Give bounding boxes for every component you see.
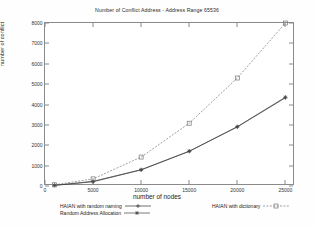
y-tick-label: 6000 (31, 61, 42, 67)
data-point (139, 168, 143, 172)
series-2 (53, 21, 288, 187)
legend-label: Random Address Allocation (60, 210, 121, 216)
x-tick-label: 20000 (230, 187, 244, 193)
chart-legend: HAIAN with random naming Random Address … (0, 200, 314, 224)
x-axis-label: number of nodes (0, 193, 314, 200)
series-line (55, 98, 286, 186)
series-line (55, 23, 286, 185)
y-tick-label: 2000 (31, 142, 42, 148)
legend-key-dashed-square (263, 203, 289, 209)
plot-area: 010002000300040005000600070008000 050001… (44, 22, 294, 185)
y-axis-label: number of conflict (0, 22, 5, 66)
legend-label: HAIAN with random naming (60, 203, 122, 209)
series-1 (53, 95, 288, 187)
legend-marker (136, 204, 140, 208)
legend-item-haian-dictionary: HAIAN with dictionary (212, 202, 289, 209)
legend-item-random-address-allocation: Random Address Allocation (60, 209, 150, 216)
legend-key-solid-star (124, 210, 150, 216)
x-tick-label: 5000 (88, 187, 99, 193)
chart-figure: Number of Conflict Address - Address Ran… (0, 0, 314, 227)
y-tick-label: 4000 (31, 102, 42, 108)
y-tick-label: 1000 (31, 163, 42, 169)
x-tick-label: 25000 (278, 187, 292, 193)
data-series-group (45, 23, 295, 186)
legend-marker (135, 211, 139, 215)
x-tick-label: 15000 (182, 187, 196, 193)
series-0 (53, 96, 288, 188)
y-tick-label: 8000 (31, 20, 42, 26)
y-tick-label: 7000 (31, 40, 42, 46)
x-tick-label: 10000 (134, 187, 148, 193)
y-tick-label: 3000 (31, 122, 42, 128)
series-line (55, 97, 286, 185)
data-point (91, 179, 95, 183)
legend-item-haian-random-naming: HAIAN with random naming (60, 202, 151, 209)
chart-title: Number of Conflict Address - Address Ran… (0, 7, 314, 13)
x-tick-label: 0 (44, 187, 47, 193)
data-point (235, 125, 239, 129)
legend-label: HAIAN with dictionary (212, 203, 260, 209)
y-tick-label: 5000 (31, 81, 42, 87)
legend-key-solid-plus (125, 203, 151, 209)
data-point (187, 149, 191, 153)
data-point (283, 95, 287, 99)
y-tick-label: 0 (40, 183, 43, 189)
